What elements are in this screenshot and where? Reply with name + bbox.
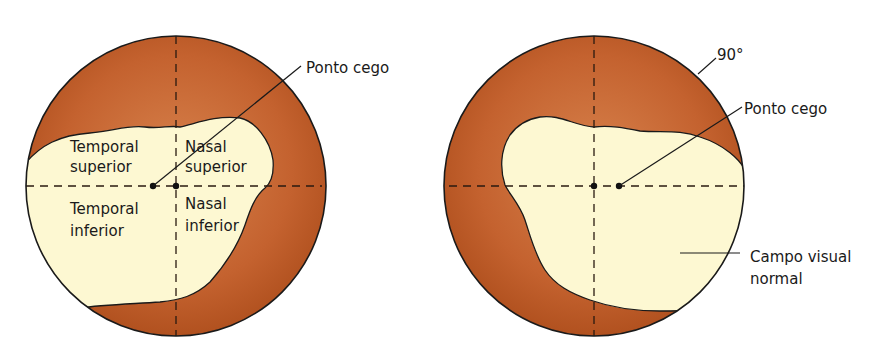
normal-field-label-1: Campo visual xyxy=(750,248,851,266)
label-nasal-superior-2: superior xyxy=(185,158,248,176)
label-nasal-inferior-1: Nasal xyxy=(185,195,227,213)
right-visual-field: Ponto cego 90° Campo visual normal xyxy=(444,36,851,336)
left-fixation-dot xyxy=(173,183,179,189)
diagram-canvas: Ponto cego Temporal superior Nasal super… xyxy=(0,0,887,352)
normal-field-label-2: normal xyxy=(750,270,803,288)
right-fixation-dot xyxy=(591,183,597,189)
label-temporal-inferior-1: Temporal xyxy=(69,200,139,218)
label-temporal-superior-2: superior xyxy=(70,158,133,176)
left-visual-field: Ponto cego Temporal superior Nasal super… xyxy=(20,36,389,336)
label-nasal-inferior-2: inferior xyxy=(185,217,240,235)
degree-leader xyxy=(698,58,716,74)
left-blind-spot-label: Ponto cego xyxy=(306,59,389,77)
label-temporal-superior-1: Temporal xyxy=(69,138,139,156)
label-nasal-superior-1: Nasal xyxy=(185,138,227,156)
label-temporal-inferior-2: inferior xyxy=(70,222,125,240)
visual-field-figure: Ponto cego Temporal superior Nasal super… xyxy=(0,0,887,352)
degree-label: 90° xyxy=(717,46,744,64)
right-blind-spot-label: Ponto cego xyxy=(744,100,827,118)
